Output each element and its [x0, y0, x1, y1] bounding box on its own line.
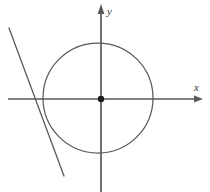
- y-axis-arrowhead: [98, 4, 105, 14]
- origin-point: [98, 96, 104, 102]
- graph-canvas: y x: [0, 0, 210, 192]
- y-axis-label: y: [106, 5, 112, 17]
- x-axis-label: x: [193, 81, 199, 93]
- line-shape: [9, 28, 64, 176]
- figure-container: y x: [0, 0, 210, 192]
- x-axis-arrowhead: [194, 96, 203, 103]
